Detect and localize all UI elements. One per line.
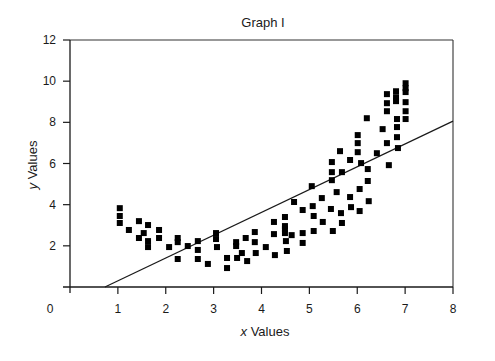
data-point <box>347 194 353 200</box>
x-tick-label: 6 <box>354 302 361 316</box>
data-point <box>311 213 317 219</box>
data-point <box>263 244 269 250</box>
x-tick-label: 2 <box>162 302 169 316</box>
data-point <box>330 228 336 234</box>
data-point <box>384 100 390 106</box>
data-point <box>145 244 151 250</box>
data-point <box>364 115 370 121</box>
data-point <box>252 229 258 235</box>
data-point <box>214 244 220 250</box>
data-point <box>272 252 278 258</box>
data-point <box>271 231 277 237</box>
data-point <box>117 213 123 219</box>
data-point <box>252 239 258 245</box>
y-ticks: 24681012 <box>43 33 70 253</box>
y-tick-label: 10 <box>43 74 57 88</box>
data-point <box>175 256 181 262</box>
data-point <box>329 159 335 165</box>
data-point <box>185 243 191 249</box>
data-point <box>117 220 123 226</box>
data-point <box>291 199 297 205</box>
data-point <box>384 140 390 146</box>
data-point <box>271 219 277 225</box>
data-point <box>393 98 399 104</box>
data-point <box>329 169 335 175</box>
data-point <box>403 99 409 105</box>
data-point <box>205 261 211 267</box>
data-point <box>224 255 230 261</box>
x-ticks: 012345678 <box>47 287 457 316</box>
data-point <box>403 89 409 95</box>
data-point <box>339 169 345 175</box>
y-tick-label: 6 <box>49 157 56 171</box>
data-point <box>357 208 363 214</box>
data-point <box>338 210 344 216</box>
data-point <box>300 240 306 246</box>
data-point <box>355 140 361 146</box>
data-point <box>283 238 289 244</box>
data-point <box>224 265 230 271</box>
y-axis-rest: Values <box>25 140 40 183</box>
data-point <box>239 250 245 256</box>
x-axis-label: x Values <box>240 324 290 339</box>
data-point <box>300 207 306 213</box>
data-point <box>334 189 340 195</box>
data-point <box>213 236 219 242</box>
y-tick-label: 8 <box>49 115 56 129</box>
y-tick-label: 4 <box>49 198 56 212</box>
y-axis-label: y Values <box>25 140 40 190</box>
data-point <box>403 116 409 122</box>
data-point <box>145 238 151 244</box>
data-point <box>347 157 353 163</box>
data-point <box>233 243 239 249</box>
data-point <box>403 108 409 114</box>
data-point <box>384 108 390 114</box>
data-point <box>319 195 325 201</box>
x-axis-rest: Values <box>247 324 290 339</box>
data-point <box>253 250 259 256</box>
data-point <box>126 227 132 233</box>
data-point <box>339 220 345 226</box>
data-point <box>337 148 343 154</box>
data-point <box>289 232 295 238</box>
data-point <box>282 230 288 236</box>
data-point <box>156 227 162 233</box>
data-point <box>310 203 316 209</box>
chart-title: Graph I <box>241 15 284 30</box>
x-tick-label: 0 <box>47 302 54 316</box>
x-tick-label: 4 <box>258 302 265 316</box>
data-point <box>243 235 249 241</box>
data-point <box>394 116 400 122</box>
data-point <box>386 162 392 168</box>
data-point <box>166 244 172 250</box>
data-point <box>374 150 380 156</box>
data-point <box>394 134 400 140</box>
data-point <box>355 149 361 155</box>
data-point <box>244 258 250 264</box>
x-tick-label: 7 <box>402 302 409 316</box>
data-point <box>328 206 334 212</box>
data-point <box>320 219 326 225</box>
data-point <box>300 230 306 236</box>
data-point <box>136 218 142 224</box>
data-point <box>145 222 151 228</box>
data-point <box>156 235 162 241</box>
data-point <box>309 183 315 189</box>
data-point <box>384 91 390 97</box>
data-point <box>284 248 290 254</box>
data-point <box>358 160 364 166</box>
data-point <box>394 124 400 130</box>
data-point <box>365 178 371 184</box>
data-point <box>393 88 399 94</box>
data-point <box>311 228 317 234</box>
data-point <box>395 145 401 151</box>
x-tick-label: 3 <box>210 302 217 316</box>
data-point <box>357 186 363 192</box>
x-tick-label: 5 <box>306 302 313 316</box>
data-point <box>366 198 372 204</box>
x-tick-label: 1 <box>115 302 122 316</box>
data-point <box>195 256 201 262</box>
data-point <box>136 235 142 241</box>
data-point <box>195 238 201 244</box>
y-tick-label: 12 <box>43 33 57 47</box>
